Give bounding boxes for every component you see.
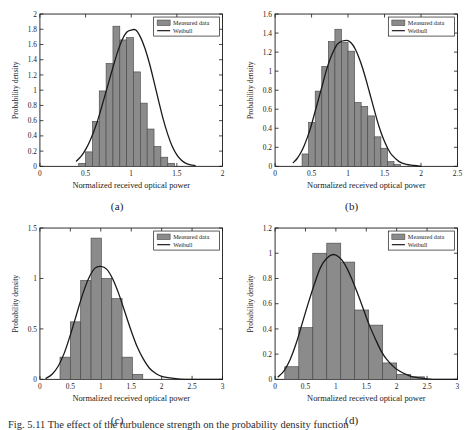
- svg-text:1: 1: [268, 249, 272, 258]
- chart-panel-c: 00.511.522.5300.511.5Normalized received…: [0, 214, 235, 427]
- svg-text:2.5: 2.5: [452, 169, 462, 178]
- svg-text:1.2: 1.2: [262, 48, 272, 57]
- svg-text:0.6: 0.6: [262, 300, 272, 309]
- svg-text:0.5: 0.5: [28, 325, 38, 334]
- svg-text:0.5: 0.5: [300, 383, 310, 392]
- svg-text:Normalized received optical po: Normalized received optical power: [307, 395, 426, 404]
- svg-text:Measured data: Measured data: [173, 234, 209, 241]
- svg-text:2: 2: [419, 169, 423, 178]
- svg-text:Measured data: Measured data: [407, 19, 444, 26]
- panel-caption-a: (a): [0, 200, 235, 212]
- svg-text:1.6: 1.6: [28, 40, 38, 49]
- svg-text:1.2: 1.2: [262, 224, 272, 233]
- chart-panel-a: 00.511.5200.20.40.60.811.21.41.61.82Norm…: [0, 0, 235, 214]
- svg-text:Probability density: Probability density: [246, 61, 255, 119]
- svg-text:Weibull: Weibull: [173, 241, 193, 248]
- svg-text:1: 1: [99, 383, 103, 392]
- svg-text:0: 0: [38, 169, 42, 178]
- svg-text:1.8: 1.8: [28, 25, 38, 34]
- svg-text:0: 0: [33, 162, 37, 171]
- svg-text:0: 0: [268, 162, 272, 171]
- svg-text:0: 0: [268, 375, 272, 384]
- svg-text:0.5: 0.5: [306, 169, 316, 178]
- svg-text:Weibull: Weibull: [173, 27, 193, 34]
- svg-text:0.2: 0.2: [262, 143, 272, 152]
- svg-text:0: 0: [273, 169, 277, 178]
- svg-text:0: 0: [33, 375, 37, 384]
- svg-text:1: 1: [33, 86, 37, 95]
- chart-svg-c: 00.511.522.5300.511.5Normalized received…: [0, 214, 235, 427]
- svg-text:Measured data: Measured data: [407, 234, 444, 241]
- svg-text:0: 0: [273, 383, 277, 392]
- svg-text:1: 1: [346, 169, 350, 178]
- svg-text:1: 1: [334, 383, 338, 392]
- svg-text:1.5: 1.5: [127, 383, 137, 392]
- svg-text:0.8: 0.8: [262, 86, 272, 95]
- svg-text:0.6: 0.6: [28, 116, 38, 125]
- svg-text:Weibull: Weibull: [407, 27, 427, 34]
- svg-text:3: 3: [455, 383, 459, 392]
- svg-text:0.2: 0.2: [28, 147, 38, 156]
- svg-text:0.5: 0.5: [66, 383, 76, 392]
- svg-text:1.4: 1.4: [262, 29, 272, 38]
- svg-text:1: 1: [129, 169, 133, 178]
- svg-text:0.2: 0.2: [262, 350, 272, 359]
- svg-text:0.8: 0.8: [262, 275, 272, 284]
- chart-svg-d: 00.511.522.5300.20.40.60.811.2Normalized…: [235, 214, 469, 427]
- svg-text:1.4: 1.4: [28, 55, 38, 64]
- svg-text:1.6: 1.6: [262, 10, 272, 19]
- svg-text:Weibull: Weibull: [407, 241, 427, 248]
- chart-panel-b: 00.511.522.500.20.40.60.811.21.41.6Norma…: [235, 0, 469, 214]
- svg-text:0.5: 0.5: [81, 169, 91, 178]
- chart-svg-a: 00.511.5200.20.40.60.811.21.41.61.82Norm…: [0, 0, 235, 214]
- svg-text:0.6: 0.6: [262, 105, 272, 114]
- svg-text:2.5: 2.5: [422, 383, 432, 392]
- svg-text:Normalized received optical po: Normalized received optical power: [72, 395, 190, 404]
- svg-text:3: 3: [221, 383, 225, 392]
- svg-text:Measured data: Measured data: [173, 19, 209, 26]
- svg-text:1: 1: [33, 275, 37, 284]
- svg-text:2: 2: [160, 383, 164, 392]
- panel-caption-b: (b): [235, 200, 469, 212]
- chart-panel-d: 00.511.522.5300.20.40.60.811.2Normalized…: [235, 214, 469, 427]
- svg-text:2: 2: [33, 10, 37, 19]
- svg-text:Probability density: Probability density: [11, 275, 20, 333]
- svg-text:0.8: 0.8: [28, 101, 38, 110]
- svg-text:Probability density: Probability density: [246, 275, 255, 333]
- svg-text:1: 1: [268, 67, 272, 76]
- svg-text:1.5: 1.5: [361, 383, 371, 392]
- svg-text:0.4: 0.4: [262, 124, 272, 133]
- svg-text:Probability density: Probability density: [11, 61, 20, 119]
- svg-text:Normalized received optical po: Normalized received optical power: [307, 181, 426, 190]
- svg-text:1.5: 1.5: [379, 169, 389, 178]
- svg-text:1.5: 1.5: [28, 224, 38, 233]
- svg-text:2: 2: [394, 383, 398, 392]
- svg-text:0: 0: [38, 383, 42, 392]
- figure-caption: Fig. 5.11 The effect of the turbulence s…: [8, 418, 466, 430]
- svg-text:0.4: 0.4: [28, 131, 38, 140]
- chart-svg-b: 00.511.522.500.20.40.60.811.21.41.6Norma…: [235, 0, 469, 214]
- svg-text:1.5: 1.5: [172, 169, 182, 178]
- svg-text:Normalized received optical po: Normalized received optical power: [72, 181, 190, 190]
- svg-text:1.2: 1.2: [28, 71, 38, 80]
- svg-text:2: 2: [221, 169, 225, 178]
- svg-text:2.5: 2.5: [187, 383, 197, 392]
- svg-text:0.4: 0.4: [262, 325, 272, 334]
